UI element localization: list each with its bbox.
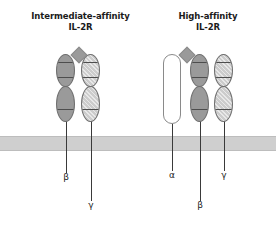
- label-gamma-high: γ: [216, 170, 232, 180]
- alpha-stem-high: [172, 124, 173, 171]
- gamma-stem-intermediate: [91, 118, 92, 201]
- gamma-lower-lobe-intermediate: [81, 86, 100, 122]
- beta-band: [190, 109, 209, 110]
- beta-upper-lobe-intermediate: [56, 54, 75, 87]
- beta-stem-high: [200, 118, 201, 201]
- beta-band: [56, 109, 75, 110]
- gamma-lower-lobe-high: [214, 86, 233, 122]
- gamma-band: [214, 62, 233, 63]
- label-gamma-intermediate: γ: [83, 200, 99, 210]
- title-high-affinity: High-affinity IL-2R: [148, 11, 268, 33]
- gamma-upper-lobe-intermediate: [81, 54, 100, 87]
- title-intermediate-line1: Intermediate-affinity: [31, 11, 129, 21]
- gamma-band: [81, 62, 100, 63]
- label-beta-intermediate: β: [58, 172, 74, 182]
- beta-stem-intermediate: [66, 118, 67, 173]
- gamma-band: [214, 109, 233, 110]
- cell-membrane: [0, 136, 276, 151]
- beta-upper-lobe-high: [190, 54, 209, 87]
- title-high-line2: IL-2R: [148, 22, 268, 33]
- beta-band: [56, 62, 75, 63]
- gamma-band: [214, 77, 233, 78]
- il2-receptor-diagram: Intermediate-affinity IL-2R High-affinit…: [0, 0, 276, 229]
- alpha-subunit-high: [163, 54, 181, 124]
- title-intermediate-line2: IL-2R: [8, 22, 153, 33]
- beta-lower-lobe-intermediate: [56, 86, 75, 122]
- gamma-band: [81, 77, 100, 78]
- label-beta-high: β: [192, 200, 208, 210]
- title-intermediate-affinity: Intermediate-affinity IL-2R: [8, 11, 153, 33]
- beta-band: [190, 62, 209, 63]
- gamma-upper-lobe-high: [214, 54, 233, 87]
- title-high-line1: High-affinity: [178, 11, 237, 21]
- gamma-stem-high: [224, 118, 225, 171]
- gamma-band: [81, 109, 100, 110]
- label-alpha-high: α: [164, 170, 180, 180]
- beta-lower-lobe-high: [190, 86, 209, 122]
- beta-band: [190, 77, 209, 78]
- beta-band: [56, 77, 75, 78]
